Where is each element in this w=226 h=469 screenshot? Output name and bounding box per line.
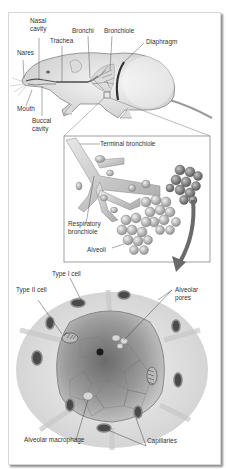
alveolus-panel: Type I cell Type II cell Alveolar pores …	[16, 270, 208, 450]
label-type2-cell: Type II cell	[16, 286, 47, 294]
label-bronchiole: Bronchiole	[104, 27, 135, 34]
alveolar-macrophage	[83, 392, 93, 400]
label-respiratory-bronchiole-2: bronchiole	[68, 228, 98, 235]
label-alveoli: Alveoli	[87, 246, 106, 253]
label-bronchi: Bronchi	[72, 27, 94, 34]
label-capillaries: Capillaries	[147, 437, 177, 445]
eye	[46, 71, 50, 74]
label-alveolar-pores-2: pores	[175, 294, 191, 302]
label-mouth: Mouth	[17, 105, 35, 112]
label-buccal-cavity-2: cavity	[32, 125, 49, 133]
label-nasal-cavity-2: cavity	[30, 25, 47, 33]
rodent-panel: Nasal cavity Bronchi Bronchiole Trachea …	[10, 17, 212, 133]
label-diaphragm: Diaphragm	[146, 38, 177, 46]
label-alveolar-pores: Alveolar	[175, 286, 199, 293]
label-nasal-cavity: Nasal	[30, 17, 46, 24]
label-buccal-cavity: Buccal	[32, 117, 51, 124]
pore-hole	[97, 349, 104, 356]
label-nares: Nares	[17, 49, 34, 56]
label-respiratory-bronchiole: Respiratory	[68, 220, 101, 228]
tail	[170, 100, 212, 118]
label-terminal-bronchiole: Terminal bronchiole	[100, 140, 156, 147]
respiratory-diagram: Nasal cavity Bronchi Bronchiole Trachea …	[0, 0, 226, 469]
label-type1-cell: Type I cell	[52, 270, 81, 278]
abdomen	[122, 56, 174, 108]
label-alveolar-macrophage: Alveolar macrophage	[24, 436, 85, 444]
label-trachea: Trachea	[50, 37, 74, 44]
